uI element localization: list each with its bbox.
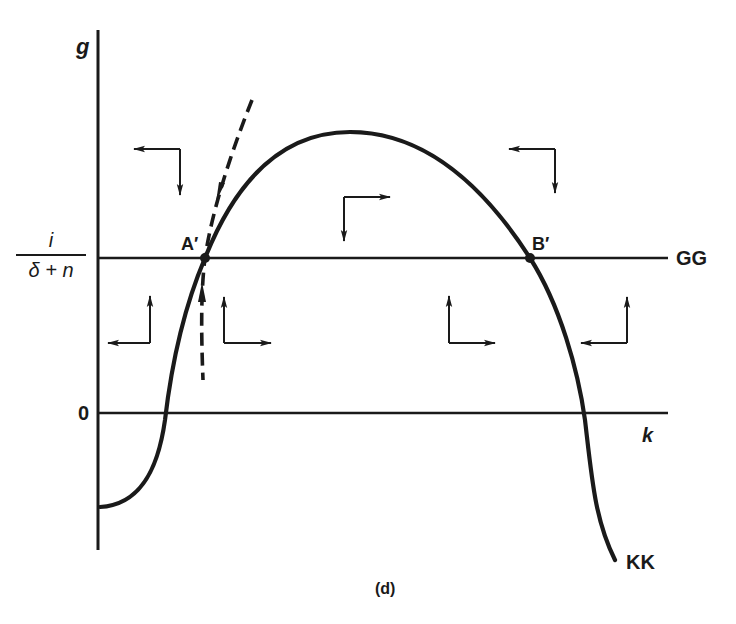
- phase-arrow-lower-left-outside-icon: [108, 296, 150, 343]
- phase-arrow-upper-right-icon: [509, 149, 555, 193]
- gg-level-fraction: i δ + n: [16, 228, 86, 282]
- zero-tick-label: 0: [78, 402, 89, 425]
- fraction-denominator: δ + n: [16, 258, 86, 282]
- phase-arrow-lower-left-inside-icon: [224, 297, 271, 343]
- phase-arrow-upper-left-icon: [134, 149, 180, 195]
- point-a-prime-label: A′: [181, 234, 198, 255]
- point-b-prime-label: B′: [532, 234, 549, 255]
- stable-arm-dashed: [202, 100, 252, 380]
- phase-arrow-lower-right-outside-icon: [581, 297, 627, 343]
- y-axis-label: g: [76, 34, 89, 60]
- phase-arrow-upper-middle-icon: [344, 197, 390, 241]
- gg-label: GG: [676, 247, 707, 270]
- fraction-bar: [16, 254, 86, 256]
- stable-arm-arrow-down-icon: [216, 182, 225, 202]
- x-axis-label: k: [642, 424, 653, 447]
- phase-diagram: [0, 0, 736, 624]
- kk-label: KK: [626, 551, 655, 574]
- fraction-numerator: i: [16, 228, 86, 252]
- phase-arrow-lower-right-inside-icon: [449, 296, 495, 343]
- stable-arm-arrow-up-icon: [198, 282, 206, 302]
- point-a-prime: [200, 253, 210, 263]
- panel-label: (d): [375, 580, 395, 598]
